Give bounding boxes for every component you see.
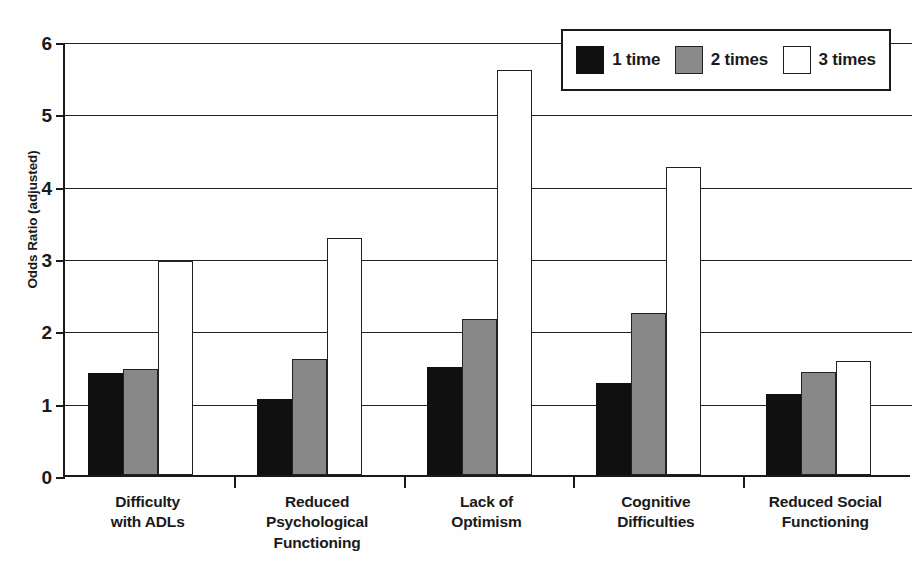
bar-group-3-series-1 [631, 313, 666, 475]
y-tick-label-5: 5 [41, 106, 52, 125]
y-tick-mark-3 [56, 260, 65, 262]
bar-chart-figure: Odds Ratio (adjusted) 0123456 Difficulty… [0, 0, 922, 579]
x-category-line: Functioning [232, 533, 401, 553]
legend-item-2: 3 times [783, 46, 876, 74]
x-tick-1 [234, 475, 236, 488]
x-tick-3 [573, 475, 575, 488]
y-tick-mark-4 [56, 188, 65, 190]
gridline-5 [65, 115, 912, 116]
chart-legend: 1 time 2 times 3 times [561, 29, 891, 91]
bar-group-1-series-0 [257, 399, 292, 475]
legend-label-0: 1 time [612, 50, 660, 70]
y-tick-label-2: 2 [41, 323, 52, 342]
legend-label-2: 3 times [819, 50, 876, 70]
x-category-line: Reduced Social [741, 492, 910, 512]
x-category-line: Psychological [232, 512, 401, 532]
bar-group-1-series-2 [327, 238, 362, 475]
y-tick-label-3: 3 [41, 251, 52, 270]
x-category-label-3: CognitiveDifficulties [571, 492, 740, 533]
y-tick-mark-2 [56, 332, 65, 334]
legend-item-1: 2 times [675, 46, 768, 74]
x-category-line: Functioning [741, 512, 910, 532]
x-category-line: Difficulties [571, 512, 740, 532]
x-category-label-4: Reduced SocialFunctioning [741, 492, 910, 533]
bar-group-3-series-0 [596, 383, 631, 475]
plot-area: 0123456 [63, 43, 910, 477]
y-tick-label-1: 1 [41, 395, 52, 414]
x-category-line: Lack of [402, 492, 571, 512]
bar-group-4-series-1 [801, 372, 836, 475]
y-axis-label: Odds Ratio (adjusted) [25, 110, 40, 330]
gridline-4 [65, 188, 912, 189]
bar-group-4-series-2 [836, 361, 871, 475]
legend-label-1: 2 times [711, 50, 768, 70]
y-tick-label-0: 0 [41, 468, 52, 487]
bar-group-2-series-2 [497, 70, 532, 475]
x-category-line: Cognitive [571, 492, 740, 512]
x-category-line: Reduced [232, 492, 401, 512]
bar-group-0-series-0 [88, 373, 123, 475]
bar-group-1-series-1 [292, 359, 327, 475]
bar-group-3-series-2 [666, 167, 701, 475]
x-category-label-0: Difficultywith ADLs [63, 492, 232, 533]
x-tick-2 [404, 475, 406, 488]
bar-group-2-series-1 [462, 319, 497, 475]
y-tick-mark-1 [56, 405, 65, 407]
y-tick-mark-5 [56, 115, 65, 117]
legend-item-0: 1 time [576, 46, 660, 74]
y-tick-label-4: 4 [41, 178, 52, 197]
x-tick-4 [743, 475, 745, 488]
y-tick-label-6: 6 [41, 34, 52, 53]
gray-swatch-icon [675, 46, 703, 74]
x-category-label-2: Lack ofOptimism [402, 492, 571, 533]
x-category-label-1: ReducedPsychologicalFunctioning [232, 492, 401, 553]
x-category-line: Optimism [402, 512, 571, 532]
x-category-line: with ADLs [63, 512, 232, 532]
bar-group-0-series-2 [158, 261, 193, 475]
black-swatch-icon [576, 46, 604, 74]
y-tick-mark-6 [56, 43, 65, 45]
bar-group-2-series-0 [427, 367, 462, 476]
bar-group-4-series-0 [766, 394, 801, 475]
white-swatch-icon [783, 46, 811, 74]
y-tick-mark-0 [56, 477, 65, 479]
x-category-line: Difficulty [63, 492, 232, 512]
bar-group-0-series-1 [123, 369, 158, 475]
